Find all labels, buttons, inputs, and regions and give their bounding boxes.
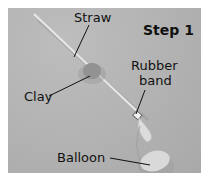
straw-leader-line [74, 25, 89, 57]
step-title: Step 1 [143, 22, 194, 38]
rubber-label-line2: band [139, 74, 172, 88]
clay-label: Clay [24, 90, 52, 104]
balloon-label: Balloon [57, 151, 105, 165]
clay-leader-line [49, 76, 90, 96]
photo-panel: Straw Step 1 Clay Rubber band Balloon [8, 8, 201, 173]
straw-label: Straw [74, 11, 111, 25]
rubber-label-line1: Rubber [131, 59, 178, 73]
rubber-band-leader-line [136, 90, 145, 114]
balloon-neck-shape [138, 118, 151, 142]
